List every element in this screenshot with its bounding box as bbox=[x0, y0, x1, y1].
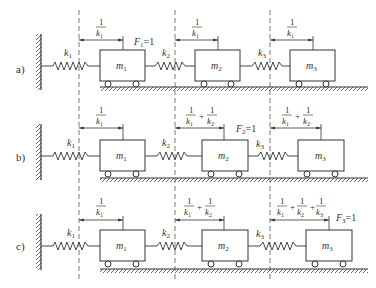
wheel-icon bbox=[133, 81, 139, 87]
svg-text:1: 1 bbox=[99, 105, 104, 115]
displacement-labels: 1k1 1k1 1k1 bbox=[96, 17, 297, 39]
ground-icon bbox=[100, 269, 368, 273]
wheel-icon bbox=[236, 171, 242, 177]
row-b: b) k1 m1 k2 m2 k3 m3 bbox=[16, 105, 368, 182]
wheel-icon bbox=[323, 81, 329, 87]
svg-text:1: 1 bbox=[306, 105, 311, 115]
svg-text:+: + bbox=[310, 202, 315, 212]
wheel-icon bbox=[296, 81, 302, 87]
wheel-icon bbox=[304, 171, 310, 177]
svg-text:k1: k1 bbox=[67, 137, 75, 150]
row-a: a) k1 m1 k2 m2 k3 m3 bbox=[16, 17, 368, 91]
svg-text:k2: k2 bbox=[162, 227, 170, 240]
svg-text:k1: k1 bbox=[287, 28, 294, 39]
spring-k1-icon bbox=[41, 62, 100, 70]
svg-text:+: + bbox=[199, 111, 204, 121]
wheel-icon bbox=[236, 261, 242, 267]
row-c: c) k1 m1 k2 m2 k3 m3 bbox=[16, 196, 368, 273]
svg-text:k1: k1 bbox=[64, 47, 72, 60]
svg-text:k2: k2 bbox=[205, 207, 212, 218]
svg-text:k3: k3 bbox=[316, 207, 323, 218]
svg-text:k2: k2 bbox=[162, 47, 170, 60]
wheel-icon bbox=[208, 171, 214, 177]
wheel-icon bbox=[105, 81, 111, 87]
spring-k3-icon bbox=[248, 152, 298, 160]
svg-text:1: 1 bbox=[208, 196, 213, 206]
row-label: a) bbox=[16, 63, 25, 76]
wheel-icon bbox=[201, 81, 207, 87]
svg-text:k2: k2 bbox=[207, 116, 214, 127]
spring-mass-flexibility-diagram: a) k1 m1 k2 m2 k3 m3 bbox=[0, 0, 376, 288]
svg-text:k3: k3 bbox=[258, 47, 266, 60]
wheel-icon bbox=[133, 171, 139, 177]
wheel-icon bbox=[332, 171, 338, 177]
spring-k1-icon bbox=[41, 242, 100, 250]
wheel-icon bbox=[133, 261, 139, 267]
svg-text:k2: k2 bbox=[297, 207, 304, 218]
svg-text:1: 1 bbox=[189, 105, 194, 115]
svg-text:1: 1 bbox=[99, 17, 104, 27]
svg-text:1: 1 bbox=[319, 196, 324, 206]
svg-text:k3: k3 bbox=[256, 228, 264, 241]
displacement-labels: 1k1 1k1 + 1k2 1k1 + 1k2 bbox=[96, 105, 313, 127]
svg-text:k1: k1 bbox=[96, 207, 103, 218]
ground-icon bbox=[100, 87, 368, 91]
spring-k3-icon bbox=[248, 242, 306, 250]
svg-text:k1: k1 bbox=[96, 116, 103, 127]
svg-text:1: 1 bbox=[280, 196, 285, 206]
wheel-icon bbox=[312, 261, 318, 267]
svg-text:1: 1 bbox=[99, 196, 104, 206]
svg-text:1: 1 bbox=[195, 17, 200, 27]
svg-text:k1: k1 bbox=[192, 28, 199, 39]
svg-text:1: 1 bbox=[290, 17, 295, 27]
svg-text:k1: k1 bbox=[96, 28, 103, 39]
fixed-wall-icon bbox=[36, 34, 41, 90]
wheel-icon bbox=[208, 261, 214, 267]
svg-text:k2: k2 bbox=[162, 137, 170, 150]
svg-text:k1: k1 bbox=[67, 227, 75, 240]
svg-text:k2: k2 bbox=[303, 116, 310, 127]
svg-text:+: + bbox=[295, 111, 300, 121]
displacement-arrows bbox=[79, 124, 321, 140]
wheel-icon bbox=[340, 261, 346, 267]
svg-text:k3: k3 bbox=[256, 138, 264, 151]
force-label: F3=1 bbox=[335, 212, 356, 225]
row-label: b) bbox=[16, 151, 26, 164]
spring-k2-icon bbox=[145, 62, 195, 70]
svg-text:1: 1 bbox=[187, 196, 192, 206]
displacement-labels: 1k1 1k1 + 1k2 1k1 + 1k2 + 1k3 bbox=[96, 196, 326, 218]
svg-text:k1: k1 bbox=[277, 207, 284, 218]
svg-text:1: 1 bbox=[300, 196, 305, 206]
ground-icon bbox=[100, 178, 368, 182]
svg-text:k1: k1 bbox=[184, 207, 191, 218]
force-label: F2=1 bbox=[235, 123, 256, 136]
wheel-icon bbox=[228, 81, 234, 87]
spring-k2-icon bbox=[145, 242, 202, 250]
wheel-icon bbox=[105, 171, 111, 177]
spring-k3-icon bbox=[240, 62, 290, 70]
svg-text:k1: k1 bbox=[282, 116, 289, 127]
spring-k2-icon bbox=[145, 152, 202, 160]
spring-k1-icon bbox=[41, 152, 100, 160]
svg-text:+: + bbox=[197, 202, 202, 212]
displacement-arrows bbox=[79, 216, 329, 230]
force-label: F1=1 bbox=[133, 36, 154, 49]
wheel-icon bbox=[105, 261, 111, 267]
svg-text:k1: k1 bbox=[186, 116, 193, 127]
svg-text:1: 1 bbox=[285, 105, 290, 115]
svg-text:+: + bbox=[290, 202, 295, 212]
row-label: c) bbox=[16, 240, 25, 253]
fixed-wall-icon bbox=[36, 214, 41, 270]
svg-text:1: 1 bbox=[210, 105, 215, 115]
fixed-wall-icon bbox=[36, 124, 41, 180]
